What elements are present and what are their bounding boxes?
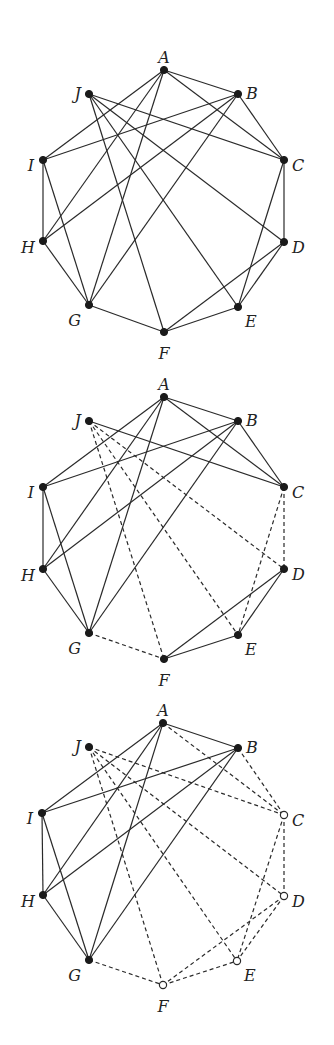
vertex-d <box>280 892 287 899</box>
edge-c-e <box>238 487 284 635</box>
graph-2: ABCDEFGHIJ <box>20 375 305 690</box>
edge-a-c <box>164 397 284 487</box>
vertex-label-h: H <box>20 892 36 911</box>
edge-j-c <box>89 747 284 815</box>
edge-g-f <box>89 305 164 332</box>
edge-h-g <box>43 569 89 633</box>
vertex-label-e: E <box>244 312 257 331</box>
edge-b-g <box>89 748 238 960</box>
vertex-c <box>280 811 287 818</box>
vertex-label-g: G <box>68 966 81 985</box>
vertex-a <box>160 66 167 73</box>
vertex-j <box>85 90 92 97</box>
vertex-g <box>85 301 92 308</box>
vertex-e <box>234 631 241 638</box>
vertex-label-a: A <box>156 375 170 394</box>
vertex-i <box>38 809 45 816</box>
vertex-label-e: E <box>243 966 256 985</box>
vertex-label-i: I <box>27 483 35 502</box>
vertex-label-f: F <box>157 671 170 690</box>
vertex-label-f: F <box>156 997 169 1016</box>
vertex-e <box>233 957 240 964</box>
vertex-label-d: D <box>291 565 305 584</box>
edge-c-e <box>238 160 284 307</box>
edge-j-d <box>89 94 284 242</box>
edge-f-e <box>164 307 238 332</box>
edge-d-e <box>238 242 284 307</box>
vertex-label-f: F <box>157 344 170 363</box>
edge-f-e <box>163 961 237 985</box>
vertex-b <box>234 744 241 751</box>
vertex-label-j: J <box>72 84 83 103</box>
vertex-g <box>85 629 92 636</box>
edge-a-b <box>164 397 238 421</box>
edge-j-d <box>89 421 284 569</box>
vertex-label-i: I <box>26 809 34 828</box>
vertex-label-d: D <box>291 238 305 257</box>
node-layer: ABCDEFGHIJ <box>20 375 305 690</box>
edge-c-e <box>237 815 284 961</box>
vertex-h <box>39 565 46 572</box>
vertex-e <box>234 303 241 310</box>
graph-1: ABCDEFGHIJ <box>20 48 305 363</box>
edge-g-f <box>89 633 164 659</box>
vertex-a <box>159 719 166 726</box>
edge-layer <box>42 723 284 985</box>
vertex-i <box>39 483 46 490</box>
edge-b-c <box>238 748 284 815</box>
vertex-f <box>159 981 166 988</box>
edge-a-b <box>164 70 238 94</box>
graph-3: ABCDEFGHIJ <box>20 701 305 1016</box>
vertex-i <box>39 156 46 163</box>
edge-d-f <box>164 242 284 332</box>
vertex-label-i: I <box>27 156 35 175</box>
vertex-label-c: C <box>292 156 304 175</box>
edge-j-f <box>89 421 164 659</box>
edge-a-c <box>164 70 284 160</box>
edge-a-h <box>43 723 163 895</box>
edge-g-f <box>89 960 163 985</box>
vertex-label-c: C <box>292 483 304 502</box>
vertex-label-h: H <box>20 238 36 257</box>
vertex-c <box>280 156 287 163</box>
edge-d-e <box>237 896 284 961</box>
edge-layer <box>43 397 284 659</box>
vertex-b <box>234 417 241 424</box>
edge-d-f <box>163 896 284 985</box>
edge-b-h <box>43 421 238 569</box>
vertex-g <box>85 956 92 963</box>
vertex-j <box>85 417 92 424</box>
vertex-label-a: A <box>155 701 169 720</box>
edge-b-c <box>238 94 284 160</box>
vertex-j <box>85 743 92 750</box>
vertex-label-b: B <box>245 738 258 757</box>
edge-i-g <box>43 160 89 305</box>
edge-i-h <box>42 813 43 895</box>
edge-f-e <box>164 635 238 659</box>
vertex-f <box>160 655 167 662</box>
edge-b-h <box>43 748 238 895</box>
vertex-h <box>39 237 46 244</box>
vertex-label-b: B <box>245 84 258 103</box>
edge-a-b <box>163 723 238 748</box>
graph-figure: ABCDEFGHIJ ABCDEFGHIJ ABCDEFGHIJ <box>0 0 334 1045</box>
edge-a-g <box>89 397 164 633</box>
edge-j-c <box>89 94 284 160</box>
edge-j-d <box>89 747 284 896</box>
vertex-label-g: G <box>68 311 81 330</box>
vertex-c <box>280 483 287 490</box>
vertex-label-c: C <box>292 811 304 830</box>
edge-d-e <box>238 569 284 635</box>
edge-layer <box>43 70 284 332</box>
edge-h-g <box>43 241 89 305</box>
vertex-d <box>280 565 287 572</box>
vertex-label-b: B <box>245 411 258 430</box>
edge-h-g <box>43 895 89 960</box>
edge-a-g <box>89 723 163 960</box>
edge-a-i <box>43 397 164 487</box>
vertex-h <box>39 891 46 898</box>
vertex-label-j: J <box>72 411 83 430</box>
edge-j-f <box>89 747 163 985</box>
vertex-d <box>280 238 287 245</box>
edge-d-f <box>164 569 284 659</box>
